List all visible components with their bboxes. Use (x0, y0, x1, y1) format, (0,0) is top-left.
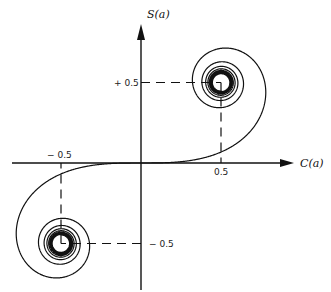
tick-label-x-neg: − 0.5 (47, 150, 72, 160)
cornu-spiral-figure: C(a) S(a) 0.5 − 0.5 + 0.5 − 0.5 (0, 0, 331, 292)
chart-svg: C(a) S(a) 0.5 − 0.5 + 0.5 − 0.5 (0, 0, 331, 292)
y-axis-arrow (137, 24, 145, 40)
x-axis-arrow (280, 159, 294, 167)
x-axis-label: C(a) (300, 157, 324, 170)
tick-label-y-neg: − 0.5 (149, 239, 174, 249)
y-axis-label: S(a) (147, 8, 170, 21)
tick-label-y-pos: + 0.5 (114, 78, 139, 88)
tick-label-x-pos: 0.5 (214, 167, 228, 177)
